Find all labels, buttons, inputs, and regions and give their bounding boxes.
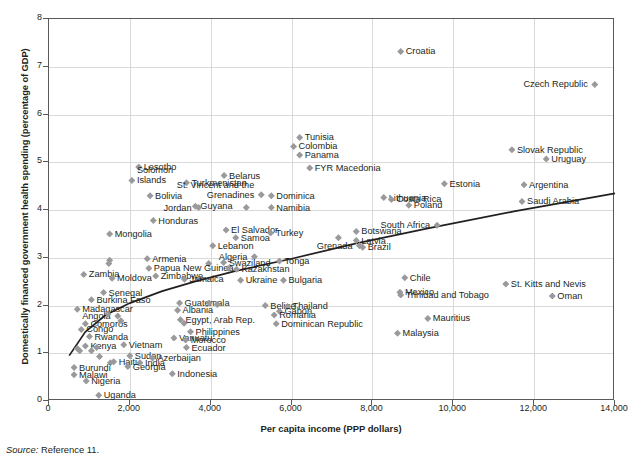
data-point-label: Jordan: [164, 203, 192, 213]
data-point-label: Oman: [557, 291, 582, 301]
x-tick-label: 14,000: [584, 404, 634, 413]
data-point-label: Ukraine: [246, 275, 278, 285]
source-note: Source: Reference 11.: [6, 444, 99, 455]
data-point-label: Grenada: [317, 241, 353, 251]
y-tick-label: 0: [22, 395, 42, 404]
data-point-label: Croatia: [406, 46, 436, 56]
data-point-label: Czech Republic: [523, 79, 587, 89]
data-point-label: Indonesia: [177, 369, 217, 379]
y-tick-label: 4: [22, 204, 42, 213]
data-point-label: Estonia: [449, 179, 480, 189]
x-tick-label: 0: [18, 404, 78, 413]
data-point-label: Albania: [183, 305, 214, 315]
data-point-label: Georgia: [133, 362, 166, 372]
data-point-label: Moldova: [117, 273, 152, 283]
data-point-label: St. Kitts and Nevis: [511, 279, 586, 289]
x-tick-label: 12,000: [503, 404, 563, 413]
data-point-label: Dominica: [276, 191, 314, 201]
x-tick-label: 2,000: [99, 404, 159, 413]
x-axis-title: Per capita income (PPP dollars): [48, 423, 614, 434]
data-point-label: Egypt, Arab Rep.: [185, 315, 254, 325]
data-point-label: Saudi Arabia: [527, 196, 579, 206]
data-point-label: Argentina: [529, 180, 568, 190]
x-tick-label: 8,000: [341, 404, 401, 413]
data-point-label: Dominican Republic: [281, 319, 363, 329]
y-tick-label: 1: [22, 347, 42, 356]
x-tick-label: 4,000: [180, 404, 240, 413]
y-tick-label: 5: [22, 156, 42, 165]
data-point-label: Panama: [305, 150, 339, 160]
data-point-label: Burkina Faso: [96, 295, 150, 305]
data-point-label: Uganda: [104, 390, 136, 400]
data-point-label: Bulgaria: [288, 275, 322, 285]
y-tick-label: 2: [22, 300, 42, 309]
data-point-label: Rwanda: [94, 332, 128, 342]
plot-area: CroatiaCzech RepublicTunisiaColombiaPana…: [48, 18, 614, 400]
data-point-label: Trinidad and Tobago: [406, 290, 489, 300]
data-point-label: Uruguay: [551, 154, 586, 164]
y-tick-label: 3: [22, 252, 42, 261]
data-point-label: Guyana: [200, 201, 232, 211]
x-tick-label: 6,000: [261, 404, 321, 413]
data-point-label: SolomonIslands: [137, 165, 173, 185]
data-point-label: Brazil: [368, 242, 391, 252]
source-prefix: Source:: [6, 444, 38, 455]
data-point-label: Turkey: [276, 228, 304, 238]
data-point-label: St. Vincent and theGrenadines: [177, 180, 254, 200]
data-point-label: Kazakhstan: [242, 264, 290, 274]
data-point-label: Nigeria: [91, 376, 120, 386]
data-point-label: Chile: [410, 273, 431, 283]
data-point-label: FYR Macedonia: [315, 163, 381, 173]
data-point-label: Honduras: [158, 216, 198, 226]
y-tick-label: 7: [22, 61, 42, 70]
data-point-label: Poland: [414, 200, 443, 210]
data-point-label: Malaysia: [402, 328, 438, 338]
x-tick-label: 10,000: [422, 404, 482, 413]
y-tick-label: 8: [22, 13, 42, 22]
data-point-label: Lebanon: [218, 241, 254, 251]
data-point-label: Vietnam: [129, 340, 163, 350]
y-tick-label: 6: [22, 109, 42, 118]
source-text: Reference 11.: [38, 444, 99, 455]
data-point-label: Ecuador: [191, 343, 225, 353]
data-point-label: Mauritius: [433, 313, 470, 323]
data-point-label: Jamaica: [189, 274, 223, 284]
data-point-label: Mongolia: [115, 229, 152, 239]
data-point-label: Armenia: [152, 254, 186, 264]
data-point-label: Namibia: [276, 203, 310, 213]
data-point-label: Kenya: [90, 341, 116, 351]
figure-scatter-health-spending: Domestically financed government health …: [0, 0, 634, 467]
